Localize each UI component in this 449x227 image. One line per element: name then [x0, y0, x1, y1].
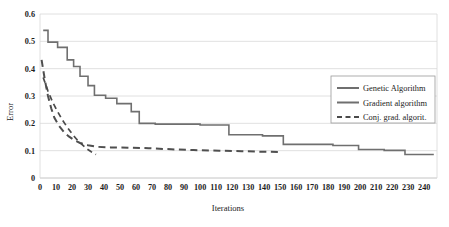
y-tick-label: 0.1 — [25, 147, 35, 156]
legend-label: Conj. grad. algorit. — [363, 113, 427, 122]
chart-canvas: 00.10.20.30.40.50.6 01020304050607080901… — [0, 0, 449, 227]
x-tick-label: 20 — [68, 183, 76, 192]
series-line-conj-grad-algorit — [43, 77, 96, 154]
y-tick-label: 0 — [31, 174, 35, 183]
x-tick-label: 240 — [418, 183, 430, 192]
error-vs-iterations-chart: 00.10.20.30.40.50.6 01020304050607080901… — [0, 0, 449, 227]
x-tick-label: 180 — [322, 183, 334, 192]
x-tick-labels-group: 0102030405060708090100110120130140150160… — [38, 183, 430, 192]
x-tick-label: 140 — [258, 183, 270, 192]
x-tick-label: 170 — [306, 183, 318, 192]
x-tick-label: 90 — [180, 183, 188, 192]
y-tick-label: 0.2 — [25, 119, 35, 128]
x-tick-label: 10 — [52, 183, 60, 192]
x-tick-label: 110 — [210, 183, 222, 192]
x-tick-label: 130 — [242, 183, 254, 192]
x-tick-label: 30 — [84, 183, 92, 192]
x-tick-label: 190 — [338, 183, 350, 192]
legend-label: Genetic Algorithm — [363, 84, 426, 93]
x-tick-label: 120 — [226, 183, 238, 192]
x-tick-label: 80 — [164, 183, 172, 192]
x-tick-label: 200 — [354, 183, 366, 192]
legend-label: Gradient algorithm — [363, 99, 427, 108]
x-tick-label: 100 — [194, 183, 206, 192]
y-tick-label: 0.3 — [25, 92, 35, 101]
x-tick-label: 0 — [38, 183, 42, 192]
y-tick-labels-group: 00.10.20.30.40.50.6 — [25, 10, 35, 183]
y-tick-label: 0.6 — [25, 10, 35, 19]
x-tick-label: 150 — [274, 183, 286, 192]
y-tick-label: 0.4 — [25, 65, 35, 74]
x-tick-label: 50 — [116, 183, 124, 192]
x-tick-label: 60 — [132, 183, 140, 192]
y-axis-title: Error — [5, 103, 15, 121]
x-axis-title: Iterations — [212, 203, 245, 213]
series-line-gradient-algorithm — [42, 60, 281, 152]
chart-legend: Genetic AlgorithmGradient algorithmConj.… — [331, 76, 435, 123]
x-tick-label: 70 — [148, 183, 156, 192]
x-tick-label: 210 — [370, 183, 382, 192]
y-tick-label: 0.5 — [25, 37, 35, 46]
x-tick-label: 40 — [100, 183, 108, 192]
x-tick-label: 160 — [290, 183, 302, 192]
x-tick-label: 230 — [402, 183, 414, 192]
x-tick-label: 220 — [386, 183, 398, 192]
